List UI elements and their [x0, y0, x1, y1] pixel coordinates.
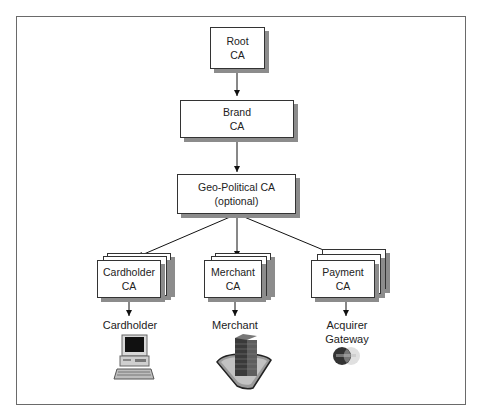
- cardholder-ca-line2: CA: [122, 279, 137, 293]
- root-ca-line1: Root: [226, 34, 248, 48]
- geo-political-ca-node: Geo-Political CA (optional): [177, 174, 296, 214]
- building-icon: [213, 332, 273, 390]
- payment-ca-line2: CA: [336, 279, 351, 293]
- cardholder-ca-line1: Cardholder: [103, 265, 155, 279]
- brand-ca-line2: CA: [230, 119, 245, 133]
- acquirer-line1: Acquirer: [318, 318, 376, 332]
- payment-ca-node: Payment CA: [311, 260, 375, 298]
- root-ca-node: Root CA: [210, 27, 265, 69]
- merchant-ca-line1: Merchant: [211, 265, 255, 279]
- payment-ca-line1: Payment: [322, 265, 363, 279]
- computer-icon: [113, 333, 155, 381]
- root-ca-line2: CA: [230, 48, 245, 62]
- acquirer-line2: Gateway: [318, 332, 376, 346]
- brand-ca-line1: Brand: [223, 105, 251, 119]
- merchant-ca-line2: CA: [226, 279, 241, 293]
- cardholder-label: Cardholder: [95, 318, 165, 332]
- geo-political-ca-line1: Geo-Political CA: [198, 180, 275, 194]
- merchant-ca-node: Merchant CA: [204, 260, 262, 298]
- merchant-label: Merchant: [205, 318, 265, 332]
- geo-political-ca-line2: (optional): [215, 194, 259, 208]
- acquirer-gateway-label: Acquirer Gateway: [318, 318, 376, 346]
- cardholder-ca-node: Cardholder CA: [97, 260, 161, 298]
- brand-ca-node: Brand CA: [180, 100, 294, 138]
- card-brand-icon: [331, 346, 363, 366]
